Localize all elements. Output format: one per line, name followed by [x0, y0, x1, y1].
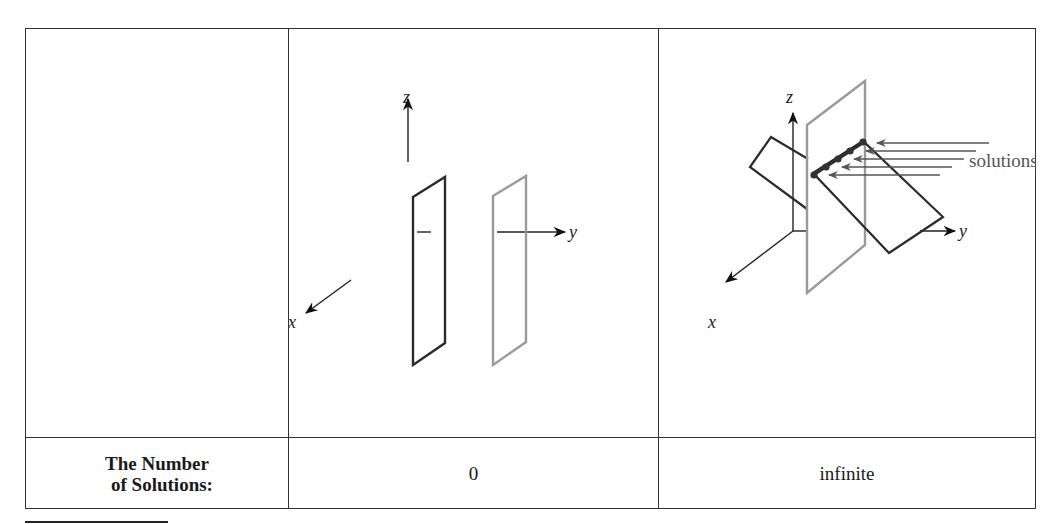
plane-dark-back [750, 137, 808, 209]
solutions-count-intersecting: infinite [659, 438, 1035, 509]
parallel-planes-figure: z y x [289, 29, 658, 437]
x-axis-arrow [306, 280, 351, 313]
solutions-table: z y x z y x [25, 28, 1036, 509]
row-label-line1: The Number [105, 453, 209, 474]
z-axis-label: z [402, 87, 410, 107]
plane-light [807, 81, 865, 293]
x-axis-label: x [289, 312, 296, 332]
plane-dark [413, 177, 445, 365]
z-axis-label: z [785, 87, 793, 107]
solutions-annotation: solutions [969, 150, 1036, 171]
x-axis-arrow [726, 231, 793, 282]
footnote-rule [25, 521, 168, 523]
empty-header-cell [26, 29, 288, 437]
plane-light [493, 176, 526, 365]
row-label-line2: of Solutions: [101, 474, 213, 495]
plane-dark-front [813, 141, 943, 253]
y-axis-label: y [567, 222, 577, 242]
solutions-count-parallel: 0 [289, 438, 658, 509]
row-label-number-of-solutions: The Number of Solutions: [26, 438, 288, 509]
x-axis-label: x [707, 312, 716, 332]
intersecting-planes-figure: z y x solutions [659, 29, 1036, 437]
y-axis-label: y [957, 221, 967, 241]
